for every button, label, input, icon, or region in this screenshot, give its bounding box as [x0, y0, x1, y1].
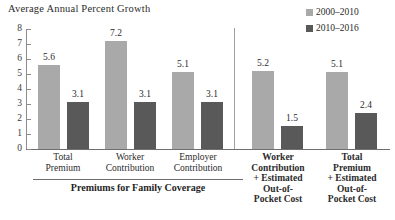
- y-label-5: 5: [8, 69, 22, 79]
- category-label-worker-contribution: Worker Contribution: [95, 152, 165, 173]
- bar-value-total-premium-oop-2010-2016: 2.4: [351, 101, 381, 111]
- bar-value-total-premium-oop-2000-2010: 5.1: [322, 60, 352, 70]
- y-tick-3: [27, 104, 31, 105]
- y-tick-0: [27, 149, 31, 150]
- y-label-4: 4: [8, 84, 22, 94]
- bar-value-worker-contribution-oop-2010-2016: 1.5: [277, 114, 307, 124]
- y-label-2: 2: [8, 114, 22, 124]
- bar-employer-contribution-2010-2016[interactable]: [201, 102, 223, 149]
- bar-employer-contribution-2000-2010[interactable]: [172, 72, 194, 149]
- bar-value-total-premium-2010-2016: 3.1: [63, 90, 93, 100]
- category-label-line: Out-of-: [240, 184, 316, 195]
- bar-value-worker-contribution-2000-2010: 7.2: [101, 29, 131, 39]
- x-axis-line: [26, 149, 390, 150]
- category-label-line: + Estimated: [240, 173, 316, 184]
- category-label-worker-contribution-oop: Worker Contribution + Estimated Out-of- …: [240, 152, 316, 205]
- bar-total-premium-2000-2010[interactable]: [38, 65, 60, 149]
- category-label-employer-contribution: Employer Contribution: [162, 152, 234, 173]
- y-label-0: 0: [8, 144, 22, 154]
- chart-container: Average Annual Percent Growth 2000–2010 …: [0, 0, 395, 220]
- category-label-line: Premium: [28, 163, 98, 174]
- group-bracket-line: [33, 179, 243, 180]
- bar-value-employer-contribution-2000-2010: 5.1: [168, 60, 198, 70]
- category-label-line: Total: [28, 152, 98, 163]
- bar-worker-contribution-2010-2016[interactable]: [134, 102, 156, 149]
- category-label-line: Worker: [240, 152, 316, 163]
- y-tick-7: [27, 44, 31, 45]
- y-label-6: 6: [8, 54, 22, 64]
- bar-value-worker-contribution-2010-2016: 3.1: [130, 90, 160, 100]
- y-tick-8: [27, 29, 31, 30]
- category-label-total-premium: Total Premium: [28, 152, 98, 173]
- bar-value-total-premium-2000-2010: 5.6: [34, 53, 64, 63]
- category-label-line: Contribution: [162, 163, 234, 174]
- y-tick-6: [27, 59, 31, 60]
- category-label-line: Pocket Cost: [314, 194, 390, 205]
- bar-worker-contribution-2000-2010[interactable]: [105, 41, 127, 149]
- category-label-total-premium-oop: Total Premium + Estimated Out-of- Pocket…: [314, 152, 390, 205]
- category-label-line: Premium: [314, 163, 390, 174]
- plot-area: 8 7 6 5 4 3 2 1 0 5.6 3.1 Total Premium …: [0, 0, 395, 220]
- category-label-line: + Estimated: [314, 173, 390, 184]
- y-tick-2: [27, 119, 31, 120]
- y-tick-4: [27, 89, 31, 90]
- bar-worker-contribution-oop-2000-2010[interactable]: [252, 71, 274, 149]
- bar-worker-contribution-oop-2010-2016[interactable]: [281, 126, 303, 149]
- category-label-line: Employer: [162, 152, 234, 163]
- group-bracket-label: Premiums for Family Coverage: [33, 182, 243, 193]
- bar-value-employer-contribution-2010-2016: 3.1: [197, 90, 227, 100]
- y-label-1: 1: [8, 129, 22, 139]
- bar-total-premium-oop-2000-2010[interactable]: [326, 72, 348, 149]
- category-label-line: Out-of-: [314, 184, 390, 195]
- category-label-line: Contribution: [95, 163, 165, 174]
- y-label-8: 8: [8, 24, 22, 34]
- bar-total-premium-2010-2016[interactable]: [67, 102, 89, 149]
- panel-divider: [234, 28, 235, 149]
- y-tick-5: [27, 74, 31, 75]
- y-tick-1: [27, 134, 31, 135]
- category-label-line: Pocket Cost: [240, 194, 316, 205]
- y-label-3: 3: [8, 99, 22, 109]
- bar-total-premium-oop-2010-2016[interactable]: [355, 113, 377, 149]
- y-label-7: 7: [8, 39, 22, 49]
- category-label-line: Total: [314, 152, 390, 163]
- category-label-line: Worker: [95, 152, 165, 163]
- category-label-line: Contribution: [240, 163, 316, 174]
- bar-value-worker-contribution-oop-2000-2010: 5.2: [248, 59, 278, 69]
